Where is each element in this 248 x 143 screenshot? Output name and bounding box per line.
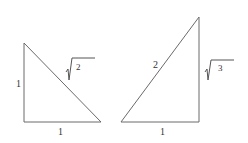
sqrt-radical-icon bbox=[66, 58, 95, 80]
triangle-edges bbox=[24, 43, 101, 122]
triangle-30-60-90: 2 1 3 bbox=[121, 17, 234, 137]
left-leg-label: 1 bbox=[16, 78, 21, 89]
triangle-45-45-90: 1 1 2 bbox=[16, 43, 101, 137]
right-leg-radicand-label: 3 bbox=[218, 63, 223, 73]
hypotenuse-label: 2 bbox=[153, 59, 158, 70]
hypotenuse-radicand-label: 2 bbox=[76, 62, 81, 72]
bottom-leg-label: 1 bbox=[58, 126, 63, 137]
bottom-leg-label: 1 bbox=[160, 126, 165, 137]
diagram-canvas: 1 1 2 2 1 3 bbox=[0, 0, 248, 143]
triangle-edges bbox=[121, 17, 199, 122]
